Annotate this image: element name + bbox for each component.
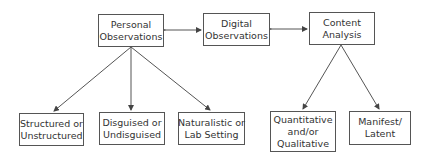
node-label-line: Qualitative [277,138,329,150]
node-label-line: Quantitative [273,114,332,126]
edge-content-quantitative [303,45,341,109]
edge-personal-structured [54,47,131,111]
node-label-line: Lab Setting [184,129,238,141]
node-manifest-latent: Manifest/ Latent [349,111,411,145]
edge-content-manifest [341,45,379,109]
node-label-line: Undisguised [103,129,161,141]
node-digital-observations: Digital Observations [203,13,270,46]
node-label-line: Disguised or [102,117,161,129]
node-label-line: Structured or [20,118,83,130]
node-label-line: Content [323,17,361,29]
node-naturalistic-lab-setting: Naturalistic or Lab Setting [178,112,245,145]
node-label-line: Personal [111,19,151,31]
node-label-line: Observations [205,30,268,42]
node-content-analysis: Content Analysis [309,12,375,45]
node-disguised-undisguised: Disguised or Undisguised [99,112,165,145]
node-label-line: Analysis [322,29,361,41]
node-label-line: Observations [100,31,163,43]
node-label-line: Manifest/ [358,116,402,128]
node-label-line: Naturalistic or [178,117,245,129]
node-label-line: Latent [365,128,395,140]
node-label-line: Unstructured [20,130,82,142]
edge-personal-naturalistic [131,47,210,110]
node-label-line: Digital [221,18,252,30]
node-personal-observations: Personal Observations [98,14,164,47]
node-quantitative-qualitative: Quantitative and/or Qualitative [270,111,336,152]
node-label-line: and/or [288,126,319,138]
node-structured-unstructured: Structured or Unstructured [19,113,84,146]
